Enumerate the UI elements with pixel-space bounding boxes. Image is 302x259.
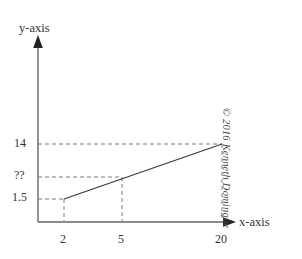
- x-axis-label: x-axis: [239, 216, 270, 229]
- data-line: [64, 144, 222, 199]
- x-tick-label-5: 5: [118, 233, 124, 245]
- y-axis-label: y-axis: [19, 22, 50, 35]
- copyright-notice: © 2016 Kenneth Domingue: [221, 108, 232, 238]
- x-axis: [38, 217, 236, 227]
- y-tick-label-14: 14: [14, 137, 26, 149]
- y-axis: [33, 35, 43, 222]
- figure-canvas: y-axis x-axis 14 ?? 1.5 2 5 20 © 2016 Ke…: [0, 0, 302, 259]
- x-tick-label-2: 2: [60, 233, 66, 245]
- y-tick-label-1point5: 1.5: [12, 191, 27, 203]
- y-tick-label-unknown: ??: [14, 169, 25, 181]
